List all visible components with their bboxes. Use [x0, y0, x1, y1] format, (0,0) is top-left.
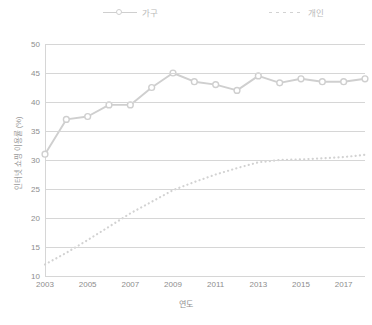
gridline: [45, 276, 365, 277]
data-point-marker: [319, 79, 325, 85]
data-point-marker: [191, 79, 197, 85]
gridline: [45, 44, 365, 45]
y-axis-title: 인터넷 쇼핑 이용률 (%): [12, 99, 23, 209]
gridline: [45, 160, 365, 161]
legend-solid-line-icon: [103, 7, 137, 17]
chart-legend: 가구 개인: [0, 4, 372, 24]
data-point-marker: [277, 80, 283, 86]
x-axis-tick-label: 2003: [36, 280, 54, 289]
y-axis-tick-label: 35: [31, 127, 40, 136]
legend-dotted-line-icon: [269, 7, 303, 17]
x-axis-title: 연도: [0, 298, 372, 309]
x-axis-tick-label: 2009: [164, 280, 182, 289]
x-axis-tick-label: 2013: [249, 280, 267, 289]
gridline: [45, 247, 365, 248]
gridline: [45, 131, 365, 132]
data-point-marker: [149, 85, 155, 91]
y-axis-tick-label: 40: [31, 98, 40, 107]
data-point-marker: [63, 117, 69, 123]
plot-area: 1015202530354045502003200520072009201120…: [45, 44, 365, 276]
series-line-household: [45, 73, 365, 154]
data-point-marker: [341, 79, 347, 85]
legend-item-individual[interactable]: 개인: [269, 6, 324, 18]
y-axis-tick-label: 50: [31, 40, 40, 49]
y-axis-tick-label: 45: [31, 69, 40, 78]
x-axis-tick-label: 2005: [79, 280, 97, 289]
gridline: [45, 73, 365, 74]
legend-label-individual: 개인: [308, 6, 324, 18]
y-axis-tick-label: 20: [31, 214, 40, 223]
x-axis-tick-label: 2007: [121, 280, 139, 289]
gridline: [45, 218, 365, 219]
legend-label-household: 가구: [142, 6, 158, 18]
data-point-marker: [85, 114, 91, 120]
x-axis-tick-label: 2011: [207, 280, 224, 289]
gridline: [45, 102, 365, 103]
gridline: [45, 189, 365, 190]
legend-item-household[interactable]: 가구: [103, 6, 158, 18]
data-point-marker: [42, 151, 48, 157]
data-point-marker: [234, 88, 240, 94]
x-axis-tick-label: 2017: [335, 280, 353, 289]
y-axis-tick-label: 30: [31, 156, 40, 165]
x-axis-tick-label: 2015: [292, 280, 310, 289]
y-axis-tick-label: 15: [31, 243, 40, 252]
chart-container: 가구 개인 인터넷 쇼핑 이용률 (%) 연도 1015202530354045…: [0, 0, 372, 325]
data-point-marker: [298, 76, 304, 82]
data-point-marker: [213, 82, 219, 88]
y-axis-tick-label: 25: [31, 185, 40, 194]
data-point-marker: [362, 76, 368, 82]
